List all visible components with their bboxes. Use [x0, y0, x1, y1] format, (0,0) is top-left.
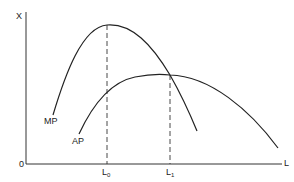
mp-curve	[53, 25, 197, 131]
ap-curve	[79, 74, 278, 148]
tick-l1-label: L1	[166, 168, 174, 177]
tick-l0-label: L0	[102, 168, 110, 177]
ap-curve-label: AP	[72, 137, 84, 146]
x-axis-label: L	[284, 159, 289, 168]
tick-l1-sub: 1	[171, 172, 174, 178]
y-axis-label: X	[16, 12, 22, 21]
origin-label: 0	[19, 160, 24, 169]
chart-canvas	[0, 0, 294, 182]
tick-l0-sub: 0	[107, 172, 110, 178]
mp-curve-label: MP	[44, 117, 58, 126]
